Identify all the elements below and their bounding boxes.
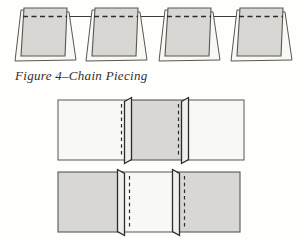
light-square — [122, 172, 177, 232]
dark-square — [128, 100, 185, 160]
pieced-row-bottom — [58, 170, 240, 236]
light-square — [58, 100, 128, 160]
figure-illustration: Figure 4–Chain Piecing — [0, 0, 301, 239]
pieced-row-top — [58, 98, 244, 164]
dark-square — [177, 172, 240, 232]
dark-square — [58, 172, 122, 232]
light-square — [185, 100, 244, 160]
seam-flap — [173, 170, 180, 236]
chain-unit — [231, 8, 292, 61]
pieced-strips-diagram — [0, 96, 301, 239]
figure-caption: Figure 4–Chain Piecing — [15, 68, 148, 84]
chain-piecing-diagram — [0, 0, 301, 66]
chain-unit — [15, 8, 76, 61]
chain-unit — [86, 8, 147, 61]
chain-unit — [159, 8, 220, 61]
seam-flap — [118, 170, 125, 236]
seam-flap — [182, 98, 189, 164]
seam-flap — [125, 98, 132, 164]
